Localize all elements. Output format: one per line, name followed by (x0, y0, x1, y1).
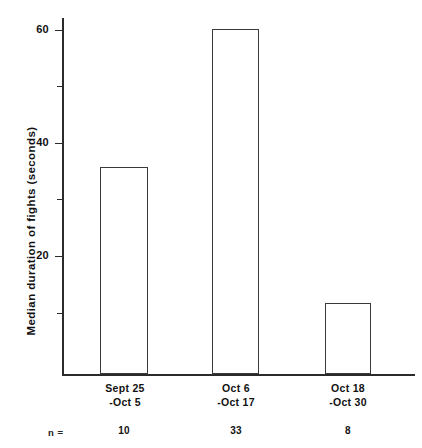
x-category-label-2-line1: Oct 6 (222, 382, 250, 394)
bar-chart-figure: Median duration of fights (seconds) 60 4… (0, 0, 422, 448)
x-category-label-3-line2: -Oct 30 (308, 395, 388, 409)
x-category-label-1-line2: -Oct 5 (84, 395, 166, 409)
x-axis-line (62, 374, 415, 376)
sample-size-value-3: 8 (318, 425, 378, 436)
x-category-label-2: Oct 6 -Oct 17 (196, 381, 276, 409)
x-category-label-3-line1: Oct 18 (331, 382, 365, 394)
sample-size-value-1: 10 (94, 425, 154, 436)
y-tick-major-60 (55, 30, 63, 31)
y-axis-line (62, 18, 64, 375)
y-tick-minor-50 (57, 86, 63, 87)
x-category-label-1: Sept 25 -Oct 5 (84, 381, 166, 409)
bar-oct18-oct30 (325, 303, 371, 374)
x-category-label-3: Oct 18 -Oct 30 (308, 381, 388, 409)
bar-sept25-oct5 (100, 167, 148, 374)
x-category-label-1-line1: Sept 25 (105, 382, 144, 394)
y-tick-major-40 (55, 143, 63, 144)
y-tick-minor-10 (57, 313, 63, 314)
y-tick-minor-30 (57, 199, 63, 200)
bar-oct6-oct17 (212, 29, 259, 374)
y-tick-label-20: 20 (9, 249, 49, 261)
sample-size-value-2: 33 (206, 425, 266, 436)
y-tick-label-60: 60 (9, 23, 49, 35)
y-tick-label-40: 40 (9, 136, 49, 148)
sample-size-label: n = (48, 427, 64, 438)
x-category-label-2-line2: -Oct 17 (196, 395, 276, 409)
y-tick-major-20 (55, 256, 63, 257)
